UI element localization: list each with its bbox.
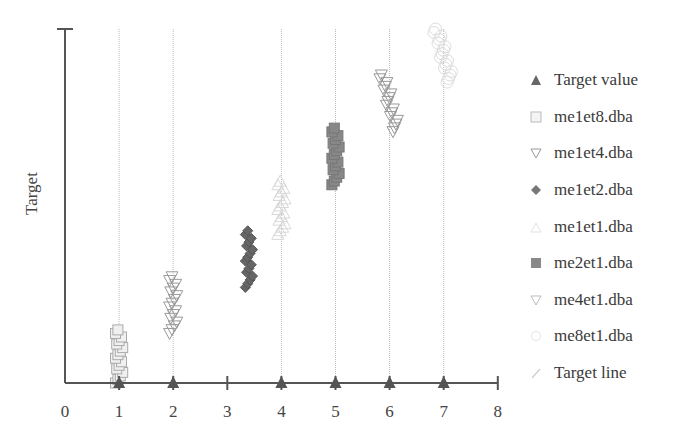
cluster-me8et1.dba: [428, 23, 457, 88]
legend-label: me1et2.dba: [554, 180, 633, 200]
square-open-icon: [528, 109, 544, 125]
line-icon: [528, 365, 544, 381]
legend-label: me2et1.dba: [554, 253, 633, 273]
legend-label: me1et8.dba: [554, 107, 633, 127]
cluster-me4et1.dba: [374, 70, 403, 138]
svg-text:3: 3: [223, 402, 232, 421]
legend-label: me1et1.dba: [554, 217, 633, 237]
svg-text:2: 2: [169, 402, 178, 421]
legend-item-me4et1: me4et1.dba: [528, 282, 638, 319]
triangle-icon: [528, 72, 544, 88]
circle-open-icon: [528, 328, 544, 344]
square-filled-icon: [528, 255, 544, 271]
data-clusters: [111, 23, 458, 388]
svg-text:0: 0: [61, 402, 70, 421]
cluster-me2et1.dba: [327, 123, 344, 190]
legend-label: me4et1.dba: [554, 290, 633, 310]
svg-text:6: 6: [385, 402, 394, 421]
svg-text:1: 1: [115, 402, 124, 421]
legend-item-me2et1: me2et1.dba: [528, 245, 638, 282]
cluster-me1et2.dba: [240, 226, 257, 293]
legend-item-target-line: Target line: [528, 355, 638, 392]
svg-text:7: 7: [439, 402, 448, 421]
y-axis-label: Target: [22, 172, 42, 215]
legend-item-me1et8: me1et8.dba: [528, 99, 638, 136]
legend-item-me1et1: me1et1.dba: [528, 208, 638, 245]
legend-label: Target value: [554, 70, 638, 90]
diamond-icon: [528, 182, 544, 198]
triangle-light-icon: [528, 219, 544, 235]
legend-label: me1et4.dba: [554, 143, 633, 163]
legend-label: me8et1.dba: [554, 326, 633, 346]
legend-item-target-value: Target value: [528, 62, 638, 99]
legend-item-me1et2: me1et2.dba: [528, 172, 638, 209]
triangle-down-open-icon: [528, 292, 544, 308]
svg-text:8: 8: [494, 402, 503, 421]
legend-item-me8et1: me8et1.dba: [528, 318, 638, 355]
triangle-down-open-icon: [528, 145, 544, 161]
legend-item-me1et4: me1et4.dba: [528, 135, 638, 172]
target-gridlines: [119, 29, 444, 383]
legend: Target value me1et8.dba me1et4.dba me1et…: [528, 62, 638, 391]
svg-text:4: 4: [277, 402, 286, 421]
svg-text:5: 5: [331, 402, 340, 421]
legend-label: Target line: [554, 363, 627, 383]
